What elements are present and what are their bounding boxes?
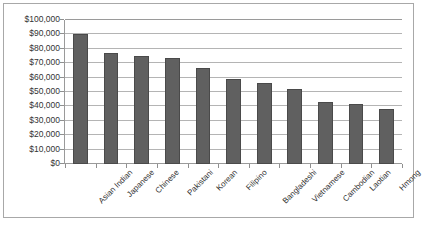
y-axis-tick-label: $40,000 [6,101,60,110]
x-axis-tick [402,164,403,168]
y-axis-tick-label: $0 [6,159,60,168]
bar-slot [371,20,402,164]
y-axis-tick-label: $20,000 [6,130,60,139]
y-axis-tick-label: $60,000 [6,73,60,82]
y-axis-tick-label: $90,000 [6,29,60,38]
chart-frame: $100,000$90,000$80,000$70,000$60,000$50,… [3,3,414,218]
bar [165,58,180,164]
y-axis-tick-label: $80,000 [6,44,60,53]
bar-series [65,20,402,164]
x-axis-tick-label: Asian Indian [97,168,134,205]
bar-slot [65,20,96,164]
y-axis-tick-label: $100,000 [6,15,60,24]
y-axis-labels: $100,000$90,000$80,000$70,000$60,000$50,… [4,20,60,164]
bar [196,68,211,164]
y-axis-tick-label: $30,000 [6,116,60,125]
y-axis-tick-label: $10,000 [6,145,60,154]
bar [379,109,394,164]
y-axis-tick-label: $50,000 [6,87,60,96]
x-axis-tick-label: Chinese [154,168,181,195]
bar-slot [188,20,219,164]
bar-slot [218,20,249,164]
bar [318,102,333,164]
x-axis-tick-label: Hmong [398,168,423,193]
x-axis-labels: Asian IndianJapaneseChinesePakistaniKore… [65,166,402,218]
bar [257,83,272,164]
bar-slot [157,20,188,164]
bar-chart: $100,000$90,000$80,000$70,000$60,000$50,… [4,4,415,219]
bar [134,56,149,164]
y-axis-tick-label: $70,000 [6,58,60,67]
x-axis-tick-label: Korean [214,168,239,193]
bar [349,104,364,164]
bar [226,79,241,164]
bar-slot [126,20,157,164]
bar [73,34,88,164]
bar [104,53,119,164]
bar [287,89,302,164]
bar-slot [310,20,341,164]
bar-slot [341,20,372,164]
x-axis-tick-label: Pakistani [185,168,214,197]
bar-slot [96,20,127,164]
bar-slot [249,20,280,164]
bar-slot [279,20,310,164]
x-axis-tick-label: Filipino [245,168,269,192]
